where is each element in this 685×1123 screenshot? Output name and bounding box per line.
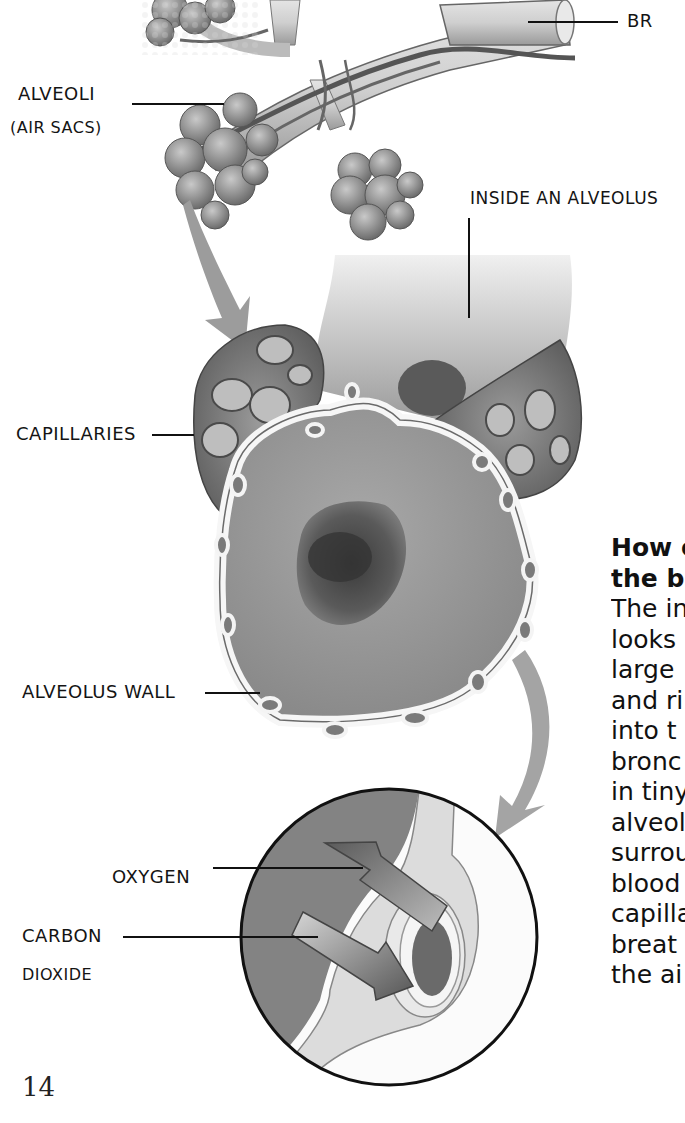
body-line: large <box>611 655 685 686</box>
page-number: 14 <box>22 1072 55 1102</box>
body-line: in tiny <box>611 777 685 808</box>
label-carbon-sub: DIOXIDE <box>22 965 92 984</box>
leader-alveolus-wall <box>205 692 260 694</box>
label-capillaries: CAPILLARIES <box>16 423 136 444</box>
body-line: The in <box>611 594 685 625</box>
leader-capillaries <box>152 434 194 436</box>
leader-alveoli <box>132 103 224 105</box>
label-alveoli-sub-text: (AIR SACS) <box>10 118 102 137</box>
body-line: breat <box>611 930 685 961</box>
body-line: looks <box>611 625 685 656</box>
body-line: and ri <box>611 686 685 717</box>
body-line: alveol <box>611 808 685 839</box>
label-bronchiole: BR <box>627 10 653 31</box>
leader-carbon <box>123 936 318 938</box>
leader-bronchiole <box>528 21 618 23</box>
body-line: the ai <box>611 960 685 991</box>
label-carbon: CARBON <box>22 925 102 946</box>
leader-inside-alveolus <box>468 218 470 318</box>
label-alveoli-text: ALVEOLI <box>18 83 95 104</box>
alveoli-cluster-top <box>140 0 260 55</box>
body-line: surrou <box>611 838 685 869</box>
label-carbon-text: CARBON <box>22 925 102 946</box>
section-heading-line1: How o <box>611 533 685 564</box>
label-carbon-sub-text: DIOXIDE <box>22 965 92 984</box>
label-capillaries-text: CAPILLARIES <box>16 423 136 444</box>
label-oxygen: OXYGEN <box>112 866 190 887</box>
alveoli-cluster-right <box>331 149 423 240</box>
label-alveoli-sub: (AIR SACS) <box>10 118 102 137</box>
label-alveolus-wall-text: ALVEOLUS WALL <box>22 681 175 702</box>
curved-arrow-2 <box>495 650 549 838</box>
label-oxygen-text: OXYGEN <box>112 866 190 887</box>
body-line: capilla <box>611 899 685 930</box>
body-line: blood <box>611 869 685 900</box>
body-text-column: How o the bl The in looks large and ri i… <box>611 533 685 991</box>
alveoli-diagram <box>0 0 685 1123</box>
label-inside-alveolus-text: INSIDE AN ALVEOLUS <box>470 188 658 208</box>
label-alveolus-wall: ALVEOLUS WALL <box>22 681 175 702</box>
leader-oxygen <box>213 867 363 869</box>
body-line: bronc <box>611 747 685 778</box>
section-heading-line2: the bl <box>611 564 685 595</box>
body-line: into t <box>611 716 685 747</box>
label-alveoli: ALVEOLI <box>18 83 95 104</box>
label-inside-alveolus: INSIDE AN ALVEOLUS <box>470 188 658 208</box>
label-bronchiole-text: BR <box>627 10 653 31</box>
